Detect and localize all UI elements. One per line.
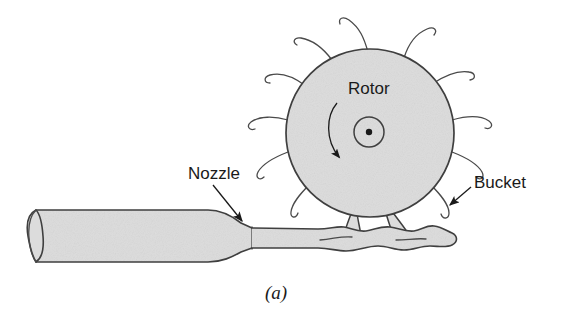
bucket-icon (265, 74, 306, 86)
bucket-icon (432, 72, 474, 84)
bucket-icon (340, 18, 368, 52)
rotor-label: Rotor (348, 79, 390, 98)
figure-canvas: Rotor Nozzle Bucket (a) (0, 0, 569, 312)
nozzle-body-fill (36, 210, 252, 262)
pelton-turbine-figure: Rotor Nozzle Bucket (a) (0, 0, 569, 312)
nozzle-inlet-cap (27, 210, 43, 262)
bucket-icon (452, 117, 492, 129)
water-jet (252, 226, 457, 251)
bucket-icon (257, 152, 288, 179)
bucket-icon (248, 117, 288, 129)
nozzle-label: Nozzle (188, 164, 240, 183)
figure-caption: (a) (265, 282, 287, 304)
bucket-leader-arrow (450, 187, 471, 205)
bucket-icon (294, 38, 332, 60)
axle-dot-icon (366, 129, 372, 135)
nozzle-pipe (27, 210, 252, 262)
bucket-icon (404, 28, 436, 58)
bucket-label: Bucket (474, 173, 526, 192)
